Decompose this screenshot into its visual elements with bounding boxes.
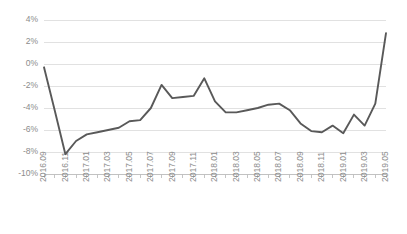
data-series [44,33,386,154]
y-axis-tick-label: 2% [26,36,39,46]
gridlines [44,20,386,174]
x-axis-tick-labels: 2016.092016.112017.012017.032017.052017.… [38,151,390,182]
x-axis-tick-label: 2019.03 [359,151,369,182]
x-axis-tick-label: 2018.11 [316,152,326,182]
y-axis-tick-label: -2% [23,80,39,90]
y-axis-tick-label: 4% [26,14,39,24]
x-axis-tick-label: 2017.03 [102,151,112,182]
x-axis-tick-label: 2018.05 [252,151,262,182]
y-axis-tick-label: -10% [18,168,38,178]
x-axis-tick-label: 2017.07 [145,151,155,182]
x-axis-tick-label: 2019.05 [380,151,390,182]
y-axis-tick-label: -6% [23,124,39,134]
y-axis-tick-label: -8% [23,146,39,156]
x-axis-tick-label: 2017.11 [188,152,198,182]
x-axis-tick-label: 2018.03 [231,151,241,182]
y-axis-tick-label: -4% [23,102,39,112]
x-axis-tick-label: 2017.01 [81,151,91,182]
x-axis-tick-label: 2018.07 [273,151,283,182]
x-axis-tick-label: 2018.01 [209,151,219,182]
chart-canvas: 4%2%0%-2%-4%-6%-8%-10% 2016.092016.11201… [0,0,407,234]
y-axis-tick-labels: 4%2%0%-2%-4%-6%-8%-10% [18,14,38,178]
y-axis-tick-label: 0% [26,58,39,68]
series-line [44,33,386,154]
x-axis-tick-label: 2016.11 [60,152,70,182]
line-chart: 4%2%0%-2%-4%-6%-8%-10% 2016.092016.11201… [0,0,407,234]
x-axis-tick-label: 2017.05 [124,151,134,182]
x-axis-tick-label: 2019.01 [338,151,348,182]
x-axis-tick-label: 2016.09 [38,151,48,182]
x-axis-tick-label: 2017.09 [167,151,177,182]
x-axis-tick-label: 2018.09 [295,151,305,182]
